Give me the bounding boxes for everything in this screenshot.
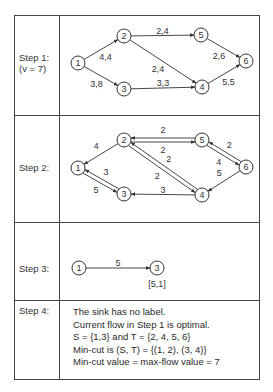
edge-2-1 [84, 144, 118, 165]
edge-label: 2,6 [213, 51, 226, 61]
edge-label: 2 [166, 154, 171, 164]
edge-label: 2 [160, 145, 165, 155]
edge-label: 4 [216, 157, 221, 167]
edge-label: 5 [115, 258, 120, 268]
step-3-graph: 513[5,1] [72, 258, 166, 289]
edge-6-4 [208, 171, 240, 191]
step-2-title: Step 2: [19, 162, 49, 173]
node-3-label: [5,1] [148, 279, 166, 289]
edge-label: 2 [227, 140, 232, 150]
edge-6-5 [209, 142, 241, 162]
node-1: 1 [72, 261, 86, 275]
edge-label: 3 [103, 167, 108, 177]
svg-text:6: 6 [243, 56, 248, 66]
edge-label: 3,8 [90, 79, 103, 89]
edge-label: 5 [217, 168, 222, 178]
step-4-title: Step 4: [19, 305, 49, 316]
svg-text:5: 5 [199, 135, 204, 145]
conclusion-line: Min-cut value = max-flow value = 7 [73, 356, 220, 369]
conclusion-line: S = {1,3} and T = {2, 4, 5, 6} [73, 331, 220, 344]
step-2-graph: 45322224253123456 [71, 125, 253, 202]
node-6: 6 [239, 160, 253, 174]
step-3-title: Step 3: [19, 263, 49, 274]
svg-text:2: 2 [121, 31, 126, 41]
flow-graphs: 4,43,82,42,43,32,65,51234564532222425312… [71, 26, 253, 290]
step-2-label: Step 2: [19, 162, 49, 173]
svg-text:3: 3 [154, 263, 159, 273]
step-1-graph: 4,43,82,42,43,32,65,5123456 [71, 26, 253, 97]
conclusion-line: Current flow in Step 1 is optimal. [73, 319, 220, 332]
svg-text:1: 1 [76, 263, 81, 273]
edge-5-6 [207, 145, 239, 165]
node-1: 1 [71, 161, 85, 175]
edge-label: 4 [94, 141, 99, 151]
node-4: 4 [195, 188, 209, 202]
edge-label: 2 [160, 125, 165, 135]
step-1-flow-value: (v = 7) [19, 63, 49, 74]
node-6: 6 [239, 54, 253, 68]
node-5: 5 [195, 133, 209, 147]
svg-text:4: 4 [199, 82, 204, 92]
conclusion-line: The sink has no label. [73, 306, 220, 319]
svg-text:6: 6 [243, 162, 248, 172]
edge-2-4 [130, 40, 196, 83]
conclusion-line: Min-cut is (S, T) = {(1, 2), (3, 4)} [73, 344, 220, 357]
edge-label: 3,3 [157, 78, 170, 88]
edge-1-3 [83, 173, 117, 192]
node-3: 3 [150, 261, 164, 275]
svg-text:3: 3 [121, 84, 126, 94]
step-4-label: Step 4: [19, 305, 49, 316]
edge-label: 5,5 [222, 77, 235, 87]
edge-label: 4,4 [99, 52, 112, 62]
svg-text:5: 5 [198, 30, 203, 40]
edge-label: 2 [155, 171, 160, 181]
node-3: 3 [117, 82, 131, 96]
svg-text:2: 2 [121, 135, 126, 145]
svg-text:1: 1 [75, 58, 80, 68]
step-4-conclusion: The sink has no label. Current flow in S… [73, 306, 220, 369]
node-2: 2 [117, 133, 131, 147]
edge-3-1 [85, 170, 119, 189]
node-1: 1 [71, 56, 85, 70]
edge-label: 3 [160, 185, 165, 195]
svg-text:1: 1 [75, 163, 80, 173]
step-1-title: Step 1: [19, 52, 49, 63]
node-2: 2 [117, 29, 131, 43]
svg-text:3: 3 [121, 189, 126, 199]
max-flow-steps-table: 4,43,82,42,43,32,65,51234564532222425312… [0, 0, 273, 392]
edge-label: 5 [94, 185, 99, 195]
edge-label: 2,4 [156, 26, 169, 36]
node-4: 4 [195, 80, 209, 94]
node-5: 5 [194, 28, 208, 42]
edge-label: 2,4 [152, 64, 165, 74]
step-3-label: Step 3: [19, 263, 49, 274]
step-1-label: Step 1: (v = 7) [19, 52, 49, 74]
svg-text:4: 4 [199, 190, 204, 200]
node-3: 3 [117, 187, 131, 201]
